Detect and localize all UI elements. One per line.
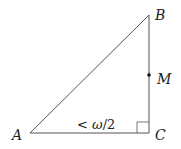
triangle-diagram: A B C M < ω/2 [0, 0, 181, 149]
angle-annotation-prefix: < [77, 117, 88, 132]
omega-symbol: ω [92, 117, 103, 132]
label-m: M [156, 71, 172, 87]
side-ab [30, 15, 149, 133]
right-angle-marker [137, 122, 149, 133]
label-b: B [154, 7, 165, 23]
label-c: C [155, 127, 166, 143]
angle-annotation: < ω/2 [77, 117, 115, 132]
label-a: A [10, 127, 22, 143]
angle-annotation-suffix: /2 [103, 117, 116, 132]
point-m [147, 73, 151, 77]
